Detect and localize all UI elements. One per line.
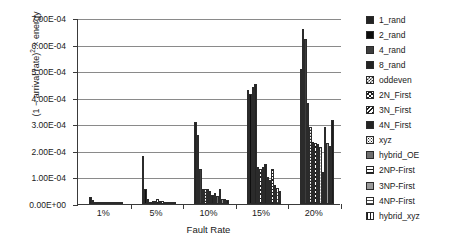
legend-label: hybrid_OE	[379, 150, 419, 160]
y-axis-tick	[73, 205, 78, 206]
x-axis-tick	[341, 204, 342, 209]
y-axis-tick-labels: 0.00E+001.00E-042.00E-043.00E-044.00E-04…	[0, 19, 74, 205]
legend-item[interactable]: xyz	[366, 133, 452, 148]
legend-label: 4N_First	[379, 120, 411, 130]
y-axis-tick-label: 5.00E-04	[32, 67, 67, 77]
bar	[174, 202, 176, 204]
legend: 1_rand2_rand4_rand8_randoddeven2N_First3…	[366, 12, 452, 223]
legend-label: 4_rand	[379, 45, 405, 55]
x-axis-tick-label: 1%	[97, 208, 110, 218]
legend-item[interactable]: 3N_First	[366, 103, 452, 118]
legend-label: 4NP-First	[379, 196, 415, 206]
y-axis-tick	[73, 99, 78, 100]
bar	[226, 200, 228, 204]
legend-item[interactable]: 3NP-First	[366, 178, 452, 193]
y-axis-tick	[73, 72, 78, 73]
y-axis-tick	[73, 46, 78, 47]
y-axis-tick	[73, 19, 78, 20]
bar	[279, 191, 281, 204]
legend-item[interactable]: 8_rand	[366, 57, 452, 72]
legend-item[interactable]: oddeven	[366, 72, 452, 87]
y-axis-tick	[73, 125, 78, 126]
legend-swatch	[366, 197, 374, 205]
legend-swatch	[366, 61, 374, 69]
y-axis-tick	[73, 152, 78, 153]
legend-item[interactable]: hybrid_OE	[366, 148, 452, 163]
legend-swatch	[366, 106, 374, 114]
y-axis-tick-label: 0.00E+00	[29, 200, 66, 210]
bar	[121, 202, 123, 204]
x-axis-title: Fault Rate	[77, 224, 340, 235]
legend-label: 2N_First	[379, 90, 411, 100]
legend-swatch	[366, 76, 374, 84]
plot-area	[77, 19, 340, 205]
legend-label: 3N_First	[379, 105, 411, 115]
x-axis-tick-label: 15%	[252, 208, 270, 218]
legend-label: 2NP-First	[379, 165, 415, 175]
y-axis-tick-label: 4.00E-04	[32, 94, 67, 104]
legend-item[interactable]: 4_rand	[366, 42, 452, 57]
legend-label: oddeven	[379, 75, 412, 85]
legend-swatch	[366, 16, 374, 24]
y-axis-tick-label: 7.00E-04	[32, 14, 67, 24]
y-axis-tick-label: 6.00E-04	[32, 41, 67, 51]
legend-item[interactable]: 2N_First	[366, 87, 452, 102]
legend-swatch	[366, 46, 374, 54]
y-axis-tick-label: 2.00E-04	[32, 147, 67, 157]
x-axis-tick-label: 5%	[149, 208, 162, 218]
legend-item[interactable]: hybrid_xyz	[366, 208, 452, 223]
legend-swatch	[366, 91, 374, 99]
legend-swatch	[366, 151, 374, 159]
bar-group	[142, 18, 176, 204]
x-axis-tick-labels: 1%5%10%15%20%	[77, 208, 340, 222]
legend-swatch	[366, 182, 374, 190]
legend-item[interactable]: 2NP-First	[366, 163, 452, 178]
y-axis-tick	[73, 178, 78, 179]
chart-figure: (1 − arrival rate)2 × energy 0.00E+001.0…	[0, 0, 452, 243]
x-axis-tick-label: 10%	[199, 208, 217, 218]
legend-swatch	[366, 136, 374, 144]
legend-swatch	[366, 212, 374, 220]
legend-item[interactable]: 1_rand	[366, 12, 452, 27]
legend-item[interactable]: 2_rand	[366, 27, 452, 42]
legend-swatch	[366, 166, 374, 174]
legend-label: 3NP-First	[379, 181, 415, 191]
x-axis-tick-label: 20%	[305, 208, 323, 218]
legend-label: 8_rand	[379, 60, 405, 70]
bar-group	[300, 18, 334, 204]
bar	[331, 120, 333, 204]
legend-item[interactable]: 4NP-First	[366, 193, 452, 208]
y-axis-tick-label: 1.00E-04	[32, 173, 67, 183]
bar-group	[247, 18, 281, 204]
bar-group	[194, 18, 228, 204]
legend-item[interactable]: 4N_First	[366, 118, 452, 133]
legend-swatch	[366, 31, 374, 39]
y-axis-tick-label: 3.00E-04	[32, 120, 67, 130]
legend-label: xyz	[379, 135, 392, 145]
legend-label: 2_rand	[379, 30, 405, 40]
legend-swatch	[366, 121, 374, 129]
bar-group	[89, 18, 123, 204]
legend-label: 1_rand	[379, 15, 405, 25]
legend-label: hybrid_xyz	[379, 211, 420, 221]
